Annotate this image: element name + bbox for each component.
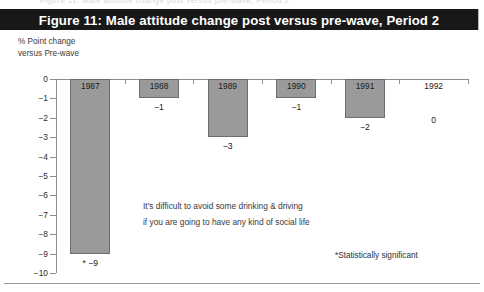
x-axis-tick xyxy=(56,79,57,84)
x-axis-tick xyxy=(399,79,400,84)
y-axis-tick-label: −10 xyxy=(34,268,48,278)
chart-annotation: It's difficult to avoid some drinking & … xyxy=(143,198,310,230)
y-axis-tick-label: −1 xyxy=(38,93,48,103)
bottom-divider xyxy=(4,283,480,284)
bar xyxy=(70,79,110,254)
bar-category-label: 1989 xyxy=(208,81,248,91)
bar-value-label: −1 xyxy=(125,102,193,112)
y-axis-tick-label: −4 xyxy=(38,152,48,162)
y-axis-tick-label: −6 xyxy=(38,190,48,200)
bar-category-label: 1991 xyxy=(345,81,385,91)
bar-value-label: 0 xyxy=(400,115,468,125)
y-axis-tick xyxy=(50,195,56,196)
x-axis-tick xyxy=(125,79,126,84)
y-axis-tick xyxy=(50,234,56,235)
y-axis-tick xyxy=(50,157,56,158)
bar-value-label: * −9 xyxy=(56,258,124,268)
y-axis-tick-label: −2 xyxy=(38,113,48,123)
chart-plot-area: 0−1−2−3−4−5−6−7−8−9−10 1987* −91988−1198… xyxy=(0,0,484,292)
bar-category-label: 1990 xyxy=(276,81,316,91)
y-axis-tick xyxy=(50,254,56,255)
y-axis-tick xyxy=(50,137,56,138)
chart-annotation-line2: if you are going to have any kind of soc… xyxy=(143,214,310,230)
y-axis-tick xyxy=(50,273,56,274)
y-axis-tick-label: −8 xyxy=(38,229,48,239)
x-axis-tick xyxy=(331,79,332,84)
bar-value-label: −1 xyxy=(262,102,330,112)
x-axis-tick xyxy=(262,79,263,84)
chart-annotation-line1: It's difficult to avoid some drinking & … xyxy=(143,198,310,214)
y-axis-tick xyxy=(50,118,56,119)
bar-category-label: 1987 xyxy=(70,81,110,91)
y-axis-tick-label: −9 xyxy=(38,249,48,259)
y-axis-tick xyxy=(50,215,56,216)
y-axis-tick-label: −5 xyxy=(38,171,48,181)
bar-value-label: −3 xyxy=(194,141,262,151)
x-axis-tick xyxy=(468,79,469,84)
bar-value-label: −2 xyxy=(331,122,399,132)
y-axis-tick xyxy=(50,98,56,99)
x-axis-tick xyxy=(193,79,194,84)
y-axis-tick xyxy=(50,176,56,177)
bar-category-label: 1992 xyxy=(414,81,454,91)
y-axis-tick-label: 0 xyxy=(43,74,48,84)
y-axis-tick-label: −3 xyxy=(38,132,48,142)
y-axis-tick-label: −7 xyxy=(38,210,48,220)
bar-category-label: 1988 xyxy=(139,81,179,91)
y-axis-line xyxy=(56,79,57,273)
significance-footnote: *Statistically significant xyxy=(335,251,418,260)
